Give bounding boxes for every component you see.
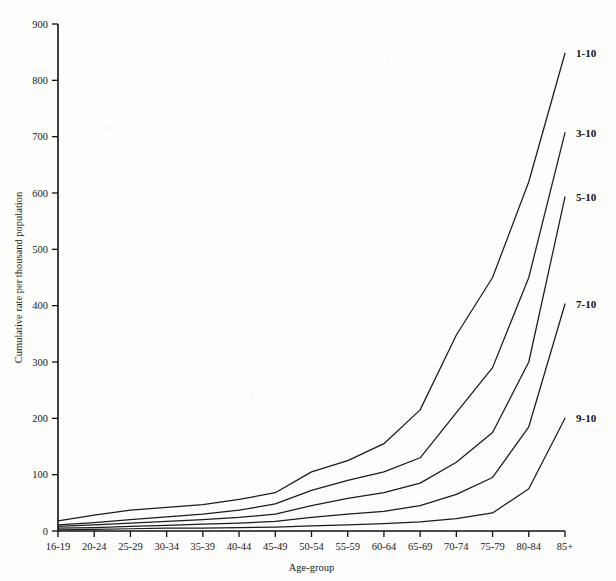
y-tick-label: 600 xyxy=(32,188,48,199)
x-axis-title: Age-group xyxy=(289,562,335,573)
x-tick-label: 40-44 xyxy=(227,541,252,552)
y-tick-label: 400 xyxy=(32,300,48,311)
series-line-7-10 xyxy=(58,304,565,528)
series-line-5-10 xyxy=(58,197,565,527)
x-tick-label: 25-29 xyxy=(118,541,143,552)
y-axis: 0100200300400500600700800900 xyxy=(32,19,58,537)
x-tick-label: 85+ xyxy=(557,541,574,552)
y-tick-label: 100 xyxy=(32,469,48,480)
series-label-3-10: 3-10 xyxy=(576,127,597,139)
series-lines xyxy=(58,53,565,530)
y-tick-label: 300 xyxy=(32,357,48,368)
x-tick-label: 30-34 xyxy=(154,541,179,552)
y-tick-label: 700 xyxy=(32,131,48,142)
x-axis: 16-1920-2425-2930-3435-3940-4445-4950-54… xyxy=(46,531,574,552)
x-tick-label: 20-24 xyxy=(82,541,107,552)
series-label-9-10: 9-10 xyxy=(576,412,597,424)
y-tick-label: 800 xyxy=(32,75,48,86)
series-label-1-10: 1-10 xyxy=(576,47,597,59)
x-tick-label: 60-64 xyxy=(372,541,397,552)
series-label-5-10: 5-10 xyxy=(576,191,597,203)
x-tick-label: 75-79 xyxy=(480,541,505,552)
x-tick-label: 70-74 xyxy=(444,541,469,552)
x-tick-label: 55-59 xyxy=(335,541,360,552)
y-tick-label: 500 xyxy=(32,244,48,255)
series-line-1-10 xyxy=(58,53,565,521)
chart-svg-canvas: 0100200300400500600700800900 16-1920-242… xyxy=(0,0,616,581)
x-tick-label: 80-84 xyxy=(517,541,542,552)
y-axis-title: Cumulative rate per thousand population xyxy=(13,191,24,363)
x-tick-label: 35-39 xyxy=(191,541,216,552)
y-tick-label: 900 xyxy=(32,19,48,30)
series-line-3-10 xyxy=(58,133,565,525)
y-tick-label: 200 xyxy=(32,413,48,424)
series-labels: 1-103-105-107-109-10 xyxy=(576,47,597,424)
x-tick-label: 50-54 xyxy=(299,541,324,552)
cumulative-rate-line-chart: 0100200300400500600700800900 16-1920-242… xyxy=(0,0,616,581)
x-tick-label: 45-49 xyxy=(263,541,288,552)
y-tick-label: 0 xyxy=(43,526,48,537)
axis-titles: Age-groupCumulative rate per thousand po… xyxy=(13,191,334,573)
x-tick-label: 65-69 xyxy=(408,541,433,552)
series-label-7-10: 7-10 xyxy=(576,298,597,310)
x-tick-label: 16-19 xyxy=(46,541,71,552)
